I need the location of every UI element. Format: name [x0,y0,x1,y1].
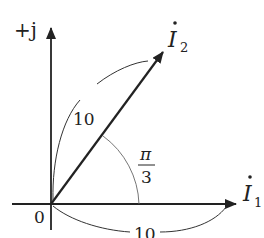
phasor-i2-symbol: I [167,27,178,52]
phasor-i1-label: I 1 [242,175,262,210]
dot-icon [173,21,177,25]
imaginary-axis-label: +j [14,18,37,42]
origin-label: 0 [34,207,45,227]
magnitude-arc-i1-right [160,207,226,232]
phasor-diagram: +j 0 I 2 I 1 10 10 π 3 [0,0,264,238]
magnitude-label-i2: 10 [73,109,95,129]
magnitude-label-i1: 10 [134,224,156,238]
angle-arc [103,136,139,204]
magnitude-arc-i1-left [53,206,130,232]
angle-label: π 3 [138,144,155,187]
angle-denominator: 3 [141,167,152,187]
phasor-i2-label: I 2 [167,21,188,55]
phasor-i1-symbol: I [242,181,253,206]
magnitude-arc-i2-upper [97,61,148,84]
dot-icon [248,175,252,179]
angle-numerator: π [139,144,152,164]
phasor-i1-subscript: 1 [254,195,262,210]
phasor-i2-subscript: 2 [180,40,188,55]
